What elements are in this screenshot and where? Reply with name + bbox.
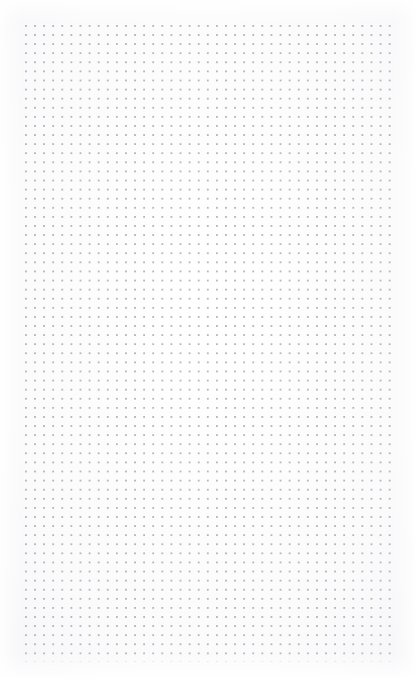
dot-grid-page <box>0 0 415 678</box>
dot-grid <box>25 25 392 662</box>
